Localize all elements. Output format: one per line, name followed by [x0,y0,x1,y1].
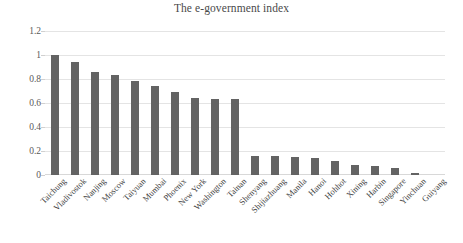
bar [191,98,199,175]
bar [351,165,359,175]
y-axis-tick-label: 1.2 [3,26,41,36]
y-axis-tick-label: 0.6 [3,98,41,108]
gridline [45,79,445,80]
y-axis-tick-label: 1 [3,50,41,60]
x-axis-labels: TaichungVladivostokNanjingMoscowTaiyuanM… [45,176,463,243]
bar [71,62,79,175]
bar [251,156,259,175]
bar [211,99,219,175]
bar [391,168,399,175]
bar [371,166,379,175]
bar [91,72,99,175]
x-axis-tick-label: Hohhot [323,176,348,201]
x-axis-tick-label: Manila [284,176,308,200]
gridline [45,55,445,56]
y-axis: 00.20.40.60.811.2 [0,31,41,175]
gridline [45,127,445,128]
bar [331,161,339,175]
x-axis-baseline [45,174,445,175]
y-axis-tick-label: 0 [3,170,41,180]
plot-area [45,31,445,175]
y-axis-tick-label: 0.8 [3,74,41,84]
y-axis-tick-label: 0.4 [3,122,41,132]
bar [311,158,319,175]
bar [231,99,239,175]
y-axis-tick-label: 0.2 [3,146,41,156]
bar [111,75,119,175]
bar [271,156,279,175]
bar [291,157,299,175]
x-axis-tick-label: Xining [344,176,368,200]
chart-container: The e-government index 00.20.40.60.811.2… [0,0,463,243]
bar [51,55,59,175]
bar [411,173,419,175]
bar [131,81,139,175]
gridline [45,151,445,152]
bar [151,86,159,175]
bar [171,92,179,175]
gridline [45,103,445,104]
chart-title: The e-government index [0,2,463,14]
gridline [45,31,445,32]
